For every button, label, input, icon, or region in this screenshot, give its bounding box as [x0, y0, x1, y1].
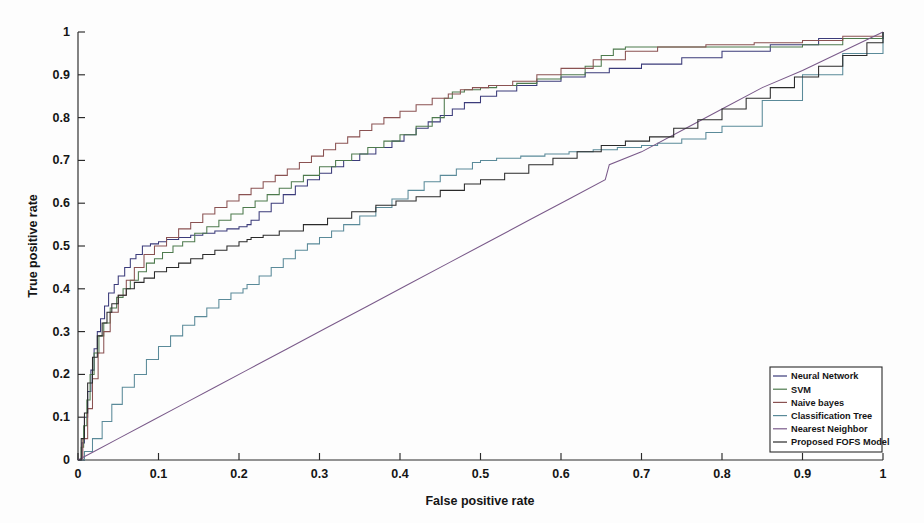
y-tick-label: 0.1 — [53, 410, 70, 424]
x-tick-label: 0.5 — [472, 467, 489, 481]
x-tick-label: 0.3 — [311, 467, 328, 481]
x-tick-label: 0.8 — [713, 467, 730, 481]
x-tick-label: 0.6 — [552, 467, 569, 481]
y-tick-label: 0.6 — [53, 196, 70, 210]
legend-label-proposed-fofs-model[interactable]: Proposed FOFS Model — [791, 437, 890, 447]
x-tick-label: 0.4 — [391, 467, 408, 481]
x-axis-ticks: 00.10.20.30.40.50.60.70.80.91 — [75, 453, 887, 481]
roc-figure: 00.10.20.30.40.50.60.70.80.91 00.10.20.3… — [0, 0, 924, 523]
roc-curves — [78, 32, 883, 460]
legend-label-naive-bayes[interactable]: Naive bayes — [791, 398, 844, 408]
legend-label-nearest-neighbor[interactable]: Nearest Neighbor — [791, 424, 868, 434]
y-tick-label: 0.4 — [53, 282, 70, 296]
y-tick-label: 0.2 — [53, 367, 70, 381]
y-tick-label: 1 — [63, 25, 70, 39]
x-tick-label: 0.1 — [150, 467, 167, 481]
legend-label-classification-tree[interactable]: Classification Tree — [791, 411, 872, 421]
y-tick-label: 0.9 — [53, 68, 70, 82]
x-tick-label: 0.2 — [230, 467, 247, 481]
y-tick-label: 0.8 — [53, 111, 70, 125]
y-tick-label: 0 — [63, 453, 70, 467]
x-tick-label: 0.9 — [794, 467, 811, 481]
x-tick-label: 0 — [75, 467, 82, 481]
legend-label-neural-network[interactable]: Neural Network — [791, 371, 859, 381]
x-tick-label: 0.7 — [633, 467, 650, 481]
roc-chart-svg: 00.10.20.30.40.50.60.70.80.91 00.10.20.3… — [0, 0, 924, 523]
y-tick-label: 0.5 — [53, 239, 70, 253]
y-axis-ticks: 00.10.20.30.40.50.60.70.80.91 — [53, 25, 85, 467]
x-axis-title: False positive rate — [425, 494, 534, 508]
legend-label-svm[interactable]: SVM — [791, 385, 811, 395]
legend: Neural NetworkSVMNaive bayesClassificati… — [770, 367, 890, 452]
y-tick-label: 0.3 — [53, 325, 70, 339]
x-tick-label: 1 — [880, 467, 887, 481]
y-tick-label: 0.7 — [53, 153, 70, 167]
y-axis-title: True positive rate — [26, 194, 40, 298]
